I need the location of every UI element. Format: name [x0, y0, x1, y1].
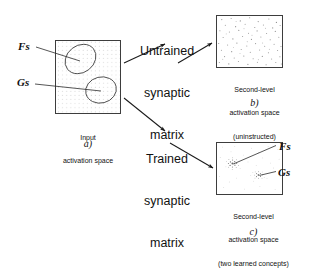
- panel-b-id: b): [200, 97, 309, 108]
- panel-c-caption-line2: activation space: [198, 236, 309, 244]
- panel-c-caption-line1: Second-level: [198, 213, 309, 221]
- panel-c-id: c): [198, 226, 309, 237]
- panel-a-box: [56, 41, 121, 114]
- process-untrained-line2: synaptic: [128, 86, 206, 100]
- panel-b-caption-line2: activation space: [200, 109, 309, 117]
- panel-c-label-gs: Gs: [278, 166, 290, 178]
- process-trained-line1: Trained: [128, 152, 206, 166]
- process-trained-synaptic-matrix: Trained synaptic matrix: [128, 124, 206, 272]
- panel-b-second-level-uninstructed: [217, 16, 283, 68]
- panel-c-caption-line3: (two learned concepts): [198, 260, 309, 268]
- panel-a-label-fs: Fs: [18, 40, 30, 52]
- panel-b-caption-line3: (uninstructed): [200, 133, 309, 141]
- panel-a-input-activation-space: [35, 38, 121, 113]
- process-trained-line2: synaptic: [128, 194, 206, 208]
- panel-b-caption-line1: Second-level: [200, 86, 309, 94]
- panel-a-label-gs: Gs: [17, 76, 29, 88]
- process-trained-line3: matrix: [128, 236, 206, 250]
- process-untrained-line1: Untrained: [128, 44, 206, 58]
- panel-b-caption: Second-level activation space (uninstruc…: [200, 70, 309, 156]
- panel-c-label-fs: Fs: [279, 140, 291, 152]
- panel-b-box: [217, 16, 283, 68]
